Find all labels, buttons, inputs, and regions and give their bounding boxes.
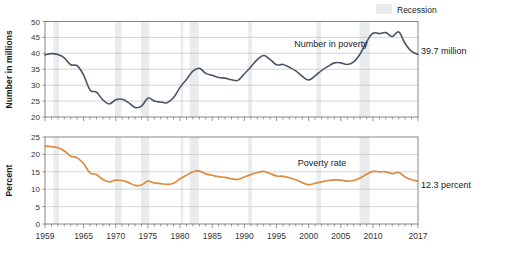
chart-number-in-poverty: 20253035404550 Number in millions Number… [4,18,467,123]
y-tick-label: 10 [31,185,40,194]
x-tick-label: 1965 [74,231,93,241]
legend: Recession [376,4,437,15]
y-tick-label: 20 [31,150,40,159]
y-tick-label: 35 [31,65,40,74]
poverty-figure: Recession 20253035404550 Number in milli… [0,0,515,259]
recession-band [316,137,321,224]
y-tick-label: 25 [31,133,40,142]
x-axis-labels: 1959196519701975198019851990199520002005… [36,231,428,241]
x-tick-label: 1975 [138,231,157,241]
x-axis-ticks-top [45,117,418,121]
recession-legend-label: Recession [397,5,437,15]
y-tick-label: 50 [31,18,40,27]
y-tick-label: 25 [31,97,40,106]
y-tick-label: 45 [31,33,40,42]
x-tick-label: 1990 [235,231,254,241]
y-axis-ticks-top: 20253035404550 [31,18,45,123]
y-axis-title-top: Number in millions [4,30,14,108]
recession-band [190,137,199,224]
y-tick-label: 30 [31,81,40,90]
y-tick-label: 0 [36,220,41,229]
y-tick-label: 40 [31,49,40,58]
x-axis-ticks-bottom [45,224,418,228]
y-tick-label: 15 [31,168,40,177]
y-tick-label: 20 [31,113,40,122]
x-tick-label: 1985 [203,231,222,241]
x-tick-label: 2017 [409,231,428,241]
recession-band [248,137,252,224]
end-value-label-number-in-poverty: 39.7 million [421,46,467,56]
recession-legend-swatch [376,4,392,14]
series-label-poverty-rate: Poverty rate [298,158,347,168]
x-tick-label: 1995 [267,231,286,241]
x-tick-label: 1980 [171,231,190,241]
x-tick-label: 1959 [36,231,55,241]
recession-bands-bottom [53,137,369,224]
y-axis-ticks-bottom: 0510152025 [31,133,45,229]
y-axis-title-bottom: Percent [4,164,14,196]
recession-band [359,137,369,224]
recession-band [181,137,184,224]
series-label-number-in-poverty: Number in poverty [294,39,368,49]
x-tick-label: 2005 [331,231,350,241]
end-value-label-poverty-rate: 12.3 percent [421,180,472,190]
chart-poverty-rate: 0510152025 19591965197019751980198519901… [4,133,472,241]
x-tick-label: 2000 [299,231,318,241]
recession-band [53,137,59,224]
y-tick-label: 5 [36,203,41,212]
x-tick-label: 1970 [106,231,125,241]
x-tick-label: 2010 [364,231,383,241]
